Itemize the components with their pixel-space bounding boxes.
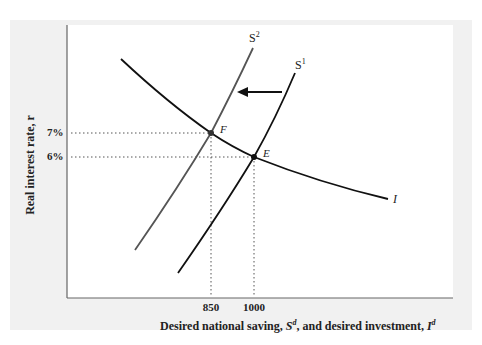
x-axis-label: Desired national saving, Sd, and desired… bbox=[160, 318, 436, 334]
curve-i-label: I bbox=[393, 192, 397, 207]
x-tick-1000: 1000 bbox=[243, 301, 265, 313]
y-axis-label: Real interest rate, r bbox=[23, 115, 38, 215]
curve-s2-label: S2 bbox=[249, 30, 260, 46]
x-tick-850: 850 bbox=[203, 301, 220, 313]
curve-s1-label: S1 bbox=[295, 57, 306, 73]
shift-arrow-head bbox=[237, 87, 248, 97]
point-f-label: F bbox=[220, 123, 227, 135]
saving-curve-s1 bbox=[178, 73, 295, 273]
saving-curve-s2 bbox=[135, 48, 253, 250]
point-e-marker bbox=[251, 154, 257, 160]
point-f-marker bbox=[208, 130, 214, 136]
y-tick-6pct: 6% bbox=[47, 150, 64, 162]
chart-canvas bbox=[0, 0, 482, 345]
point-e-label: E bbox=[263, 147, 270, 159]
y-tick-7pct: 7% bbox=[47, 126, 64, 138]
